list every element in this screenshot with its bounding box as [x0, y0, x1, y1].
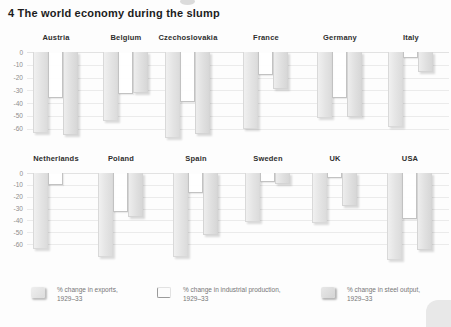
bar-industrial-production [188, 173, 203, 193]
bar-steel-output [133, 52, 148, 93]
gridline [27, 232, 449, 233]
gridline [27, 220, 449, 221]
y-axis-tick-label: -10 [0, 181, 23, 188]
country-label: Spain [161, 154, 231, 163]
country-label: Germany [305, 33, 375, 42]
industrial-production-swatch-icon [157, 287, 171, 298]
legend-label-industrial-production: % change in industrial production, 1929–… [183, 285, 281, 303]
bar-exports [33, 52, 48, 133]
country-label: Austria [21, 33, 91, 42]
legend: % change in exports, 1929–33 % change in… [0, 282, 451, 322]
bar-steel-output [63, 52, 78, 135]
gridline [27, 103, 449, 104]
bar-steel-output [128, 173, 143, 217]
y-axis-tick-label: -50 [0, 112, 23, 119]
bar-steel-output [342, 173, 357, 206]
bar-exports [388, 52, 403, 127]
y-axis-tick-label: -60 [0, 125, 23, 132]
y-axis-tick-label: -20 [0, 193, 23, 200]
country-label: Italy [376, 33, 446, 42]
y-axis-tick-label: -10 [0, 61, 23, 68]
bar-industrial-production [180, 52, 195, 102]
y-axis-tick-label: 0 [0, 49, 23, 56]
exports-swatch-icon [31, 287, 45, 298]
steel-output-swatch-icon [321, 287, 335, 298]
bar-steel-output [347, 52, 362, 117]
page-corner-block [426, 300, 451, 327]
bar-steel-output [417, 173, 432, 250]
bar-steel-output [195, 52, 210, 134]
y-axis-tick-label: 0 [0, 170, 23, 177]
bar-exports [98, 173, 113, 257]
y-axis-tick-label: -30 [0, 205, 23, 212]
bar-exports [317, 52, 332, 118]
bar-industrial-production [403, 52, 418, 58]
gridline [27, 209, 449, 210]
bar-exports [387, 173, 402, 260]
gridline [27, 116, 449, 117]
country-label: USA [375, 154, 445, 163]
bar-exports [243, 52, 258, 129]
gridline [27, 173, 449, 174]
gridline [27, 65, 449, 66]
bar-steel-output [273, 52, 288, 89]
gridline [27, 244, 449, 245]
country-label: France [231, 33, 301, 42]
y-axis-tick-label: -50 [0, 229, 23, 236]
country-label: Poland [86, 154, 156, 163]
country-label: Netherlands [21, 154, 91, 163]
gridline [27, 129, 449, 130]
figure-title: 4 The world economy during the slump [8, 7, 220, 19]
bar-exports [245, 173, 260, 222]
legend-label-exports: % change in exports, 1929–33 [57, 285, 118, 303]
bar-industrial-production [48, 52, 63, 98]
bar-industrial-production [118, 52, 133, 94]
bar-industrial-production [260, 173, 275, 182]
bar-exports [312, 173, 327, 223]
gridline [27, 185, 449, 186]
bar-industrial-production [332, 52, 347, 98]
country-label: Belgium [91, 33, 161, 42]
country-label: UK [300, 154, 370, 163]
bar-steel-output [418, 52, 433, 72]
gridline [27, 90, 449, 91]
bar-exports [103, 52, 118, 121]
country-label: Sweden [233, 154, 303, 163]
bar-exports [165, 52, 180, 138]
scan-smudge [180, 0, 195, 5]
y-axis-tick-label: -30 [0, 87, 23, 94]
bar-steel-output [203, 173, 218, 235]
bar-industrial-production [48, 173, 63, 185]
y-axis-tick-label: -20 [0, 74, 23, 81]
legend-label-steel-output: % change in steel output, 1929–33 [347, 285, 420, 303]
bar-industrial-production [327, 173, 342, 178]
bar-industrial-production [402, 173, 417, 219]
y-axis-tick-label: -60 [0, 241, 23, 248]
bar-industrial-production [113, 173, 128, 212]
gridline [27, 78, 449, 79]
bar-exports [33, 173, 48, 249]
chart-row-bottom: 0-10-20-30-40-50-60NetherlandsPolandSpai… [0, 150, 451, 274]
y-axis-tick-label: -40 [0, 217, 23, 224]
gridline [27, 197, 449, 198]
gridline [27, 52, 449, 53]
country-label: Czechoslovakia [153, 33, 223, 42]
chart-row-top: 0-10-20-30-40-50-60AustriaBelgiumCzechos… [0, 30, 451, 148]
bar-industrial-production [258, 52, 273, 75]
y-axis-tick-label: -40 [0, 100, 23, 107]
bar-exports [173, 173, 188, 257]
bar-steel-output [275, 173, 290, 184]
